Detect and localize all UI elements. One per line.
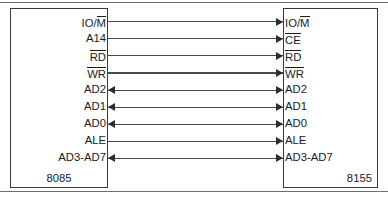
arrowhead-right-rd: [276, 52, 283, 60]
arrowhead-right-wr: [276, 69, 283, 77]
arrowhead-left-ad0: [108, 120, 115, 128]
right-pin-label-ad1: AD1: [285, 101, 377, 112]
arrowhead-left-ad2: [108, 86, 115, 94]
block-diagram-8085-8155: IO/MA14RDWRAD2AD1AD0ALEAD3-AD7 IO/MCERDW…: [0, 0, 388, 197]
chip-label-8155: 8155: [283, 172, 372, 184]
wire-ad1: [108, 107, 283, 108]
arrowhead-right-ad1: [276, 103, 283, 111]
right-pin-label-wr: WR: [285, 67, 377, 80]
left-pin-label-io-m: IO/M: [10, 16, 106, 29]
bottom-divider-rule: [0, 191, 388, 192]
left-pin-label-ale: ALE: [10, 135, 106, 146]
wire-ale: [108, 141, 283, 142]
right-pin-label-ad0: AD0: [285, 118, 377, 129]
wire-a14: [108, 38, 283, 39]
right-pin-label-ale: ALE: [285, 135, 377, 146]
left-pin-label-ad1: AD1: [10, 101, 106, 112]
right-pin-label-ad3-ad7: AD3-AD7: [285, 152, 377, 163]
right-pin-label-io-m: IO/M: [285, 16, 377, 29]
left-pin-label-ad2: AD2: [10, 84, 106, 95]
wire-wr: [108, 72, 283, 73]
wire-ad2: [108, 90, 283, 91]
wire-ad0: [108, 124, 283, 125]
left-pin-label-wr: WR: [10, 67, 106, 80]
top-divider-rule: [0, 2, 388, 3]
arrowhead-right-ale: [276, 137, 283, 145]
arrowhead-right-ad0: [276, 120, 283, 128]
left-pin-label-a14: A14: [10, 33, 106, 44]
wire-io-m: [108, 21, 283, 22]
left-pin-label-ad3-ad7: AD3-AD7: [10, 152, 106, 163]
arrowhead-right-ad3-ad7: [276, 154, 283, 162]
arrowhead-left-ad1: [108, 103, 115, 111]
arrowhead-right-io-m: [276, 18, 283, 26]
left-pin-label-ad0: AD0: [10, 118, 106, 129]
arrowhead-left-ad3-ad7: [108, 154, 115, 162]
left-pin-label-rd: RD: [10, 50, 106, 63]
right-pin-label-rd: RD: [285, 50, 377, 63]
chip-label-8085: 8085: [10, 172, 108, 184]
right-pin-label-ce: CE: [285, 33, 377, 46]
arrowhead-right-a14: [276, 35, 283, 43]
wire-ad3-ad7: [108, 158, 283, 159]
arrowhead-right-ad2: [276, 86, 283, 94]
wire-rd: [108, 55, 283, 56]
right-pin-label-ad2: AD2: [285, 84, 377, 95]
